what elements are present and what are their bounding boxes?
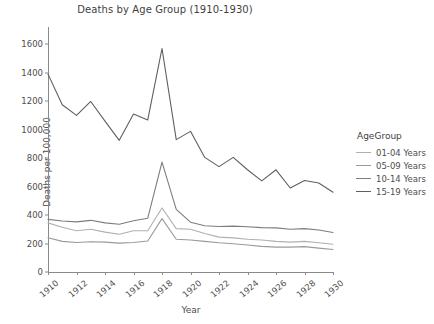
legend: AgeGroup 01-04 Years05-09 Years10-14 Yea… — [356, 131, 426, 198]
x-tick-mark — [248, 272, 249, 275]
series-line — [48, 208, 333, 244]
x-tick-label: 1914 — [94, 278, 117, 300]
x-tick-label: 1926 — [265, 278, 288, 300]
legend-item-label: 05-09 Years — [376, 161, 426, 171]
y-tick-label: 1200 — [21, 96, 43, 106]
series-line — [48, 219, 333, 250]
legend-item-label: 10-14 Years — [376, 174, 426, 184]
y-tick-label: 600 — [27, 182, 43, 192]
legend-swatch-icon — [356, 191, 371, 192]
legend-swatch-icon — [356, 178, 371, 179]
x-tick-mark — [77, 272, 78, 275]
legend-swatch-icon — [356, 152, 371, 153]
legend-title: AgeGroup — [356, 131, 426, 141]
legend-entries: 01-04 Years05-09 Years10-14 Years15-19 Y… — [356, 146, 426, 198]
x-tick-mark — [162, 272, 163, 275]
plot-area: 02004006008001000120014001600 1910191219… — [48, 30, 333, 272]
series-line — [48, 49, 333, 193]
x-tick-label: 1910 — [37, 278, 60, 300]
chart-title: Deaths by Age Group (1910-1930) — [0, 4, 330, 15]
x-tick-label: 1924 — [237, 278, 260, 300]
legend-item-label: 01-04 Years — [376, 148, 426, 158]
x-tick-mark — [105, 272, 106, 275]
series-line — [48, 162, 333, 232]
y-tick-label: 400 — [27, 210, 43, 220]
x-tick-label: 1922 — [208, 278, 231, 300]
y-tick-label: 1000 — [21, 125, 43, 135]
x-tick-mark — [305, 272, 306, 275]
y-tick-label: 0 — [38, 267, 43, 277]
y-tick-label: 200 — [27, 239, 43, 249]
x-tick-label: 1912 — [66, 278, 89, 300]
series-lines — [48, 30, 333, 272]
legend-item[interactable]: 01-04 Years — [356, 146, 426, 159]
x-axis-label: Year — [48, 305, 334, 315]
x-tick-mark — [134, 272, 135, 275]
x-tick-label: 1918 — [151, 278, 174, 300]
x-tick-mark — [276, 272, 277, 275]
x-tick-label: 1930 — [322, 278, 345, 300]
x-tick-mark — [191, 272, 192, 275]
y-tick-label: 1600 — [21, 39, 43, 49]
y-tick-label: 800 — [27, 153, 43, 163]
chart-root: Deaths by Age Group (1910-1930) Deaths p… — [0, 0, 434, 324]
x-tick-mark — [333, 272, 334, 275]
x-tick-mark — [219, 272, 220, 275]
legend-item[interactable]: 10-14 Years — [356, 172, 426, 185]
x-tick-label: 1916 — [123, 278, 146, 300]
legend-item-label: 15-19 Years — [376, 187, 426, 197]
y-tick-label: 1400 — [21, 68, 43, 78]
legend-item[interactable]: 05-09 Years — [356, 159, 426, 172]
x-tick-mark — [48, 272, 49, 275]
legend-swatch-icon — [356, 165, 371, 166]
x-tick-label: 1920 — [180, 278, 203, 300]
x-tick-label: 1928 — [294, 278, 317, 300]
legend-item[interactable]: 15-19 Years — [356, 185, 426, 198]
